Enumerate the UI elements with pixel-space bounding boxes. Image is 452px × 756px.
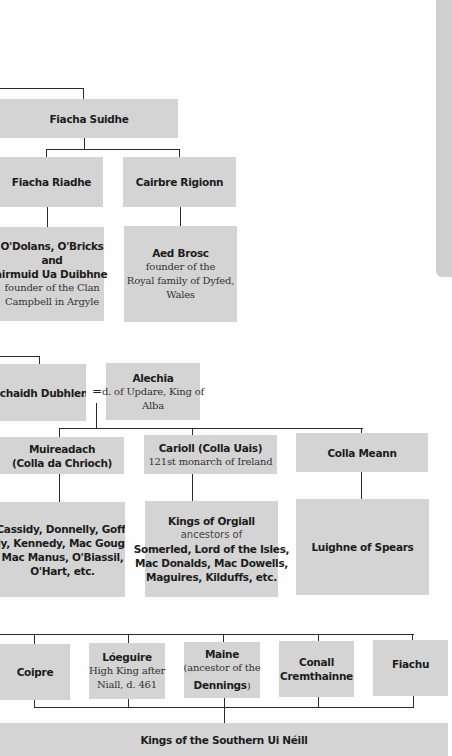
connector xyxy=(179,149,180,157)
node-name: Fiacha Suidhe xyxy=(49,112,128,126)
node-cairbre-rigionn: Cairbre Rigionn xyxy=(123,157,236,207)
node-fiacha-suidhe: Fiacha Suidhe xyxy=(0,99,178,138)
connector xyxy=(224,698,225,723)
node-carioll: Carioll (Colla Uais) 121st monarch of Ir… xyxy=(144,435,277,474)
node-kings-of-orgiall: Kings of Orgiall ancestors of Somerled, … xyxy=(145,501,278,597)
node-eochaidh: Eochaidh Dubhlen xyxy=(0,364,86,421)
node-fiacha-riadhe: Fiacha Riadhe xyxy=(0,157,103,207)
node-name: Maine xyxy=(205,647,239,661)
node-desc: (ancestor of the xyxy=(183,661,260,675)
node-desc-line: Dennings) xyxy=(194,675,251,693)
node-line: O'Hart, etc. xyxy=(30,564,95,578)
node-luighne: Luighne of Spears xyxy=(296,499,429,595)
node-fiachu: Fiachu xyxy=(373,640,448,696)
node-name: Luighne of Spears xyxy=(311,540,413,554)
node-muireadach: Muireadach (Colla da Chrioch) xyxy=(0,437,124,474)
node-colla-meann: Colla Meann xyxy=(296,433,428,472)
connector xyxy=(180,207,181,226)
node-desc: High King after xyxy=(89,664,165,678)
node-name: Alechia xyxy=(132,371,173,385)
node-cassidy: Cassidy, Donnelly, Goff, Kelly, Kennedy,… xyxy=(0,502,125,597)
node-southern-ui-neill: Kings of the Southern Ui Néill xyxy=(0,723,448,756)
node-line: O'Dolans, O'Bricks xyxy=(0,239,103,253)
connector xyxy=(192,428,193,435)
connector xyxy=(361,472,362,499)
connector xyxy=(59,474,60,502)
node-desc: Royal family of Dyfed, xyxy=(127,274,234,288)
node-desc: founder of the Clan xyxy=(5,281,100,295)
node-line: Mac Manus, O'Biassil, xyxy=(1,550,123,564)
marriage-symbol: = xyxy=(92,384,102,398)
connector xyxy=(39,356,40,364)
connector xyxy=(0,356,40,357)
node-name: Dennings xyxy=(194,679,247,691)
node-aed-brosc: Aed Brosc founder of the Royal family of… xyxy=(124,226,237,322)
node-name: Coipre xyxy=(17,665,54,679)
node-line: Kelly, Kennedy, Mac Gough, xyxy=(0,536,125,550)
connector xyxy=(413,696,414,707)
connector xyxy=(128,634,129,643)
node-maine: Maine (ancestor of the Dennings) xyxy=(184,642,260,698)
node-name: Carioll (Colla Uais) xyxy=(159,441,263,455)
node-desc: Alba xyxy=(142,399,164,413)
node-name: Aed Brosc xyxy=(152,246,209,260)
connector xyxy=(46,149,47,157)
connector xyxy=(83,88,84,99)
node-line: Conall xyxy=(299,655,334,669)
node-name: Lóeguire xyxy=(102,650,152,664)
connector xyxy=(34,634,35,644)
connector xyxy=(59,428,60,437)
node-line: and xyxy=(41,253,62,267)
node-line: Mac Donalds, Mac Dowells, xyxy=(135,556,288,570)
connector xyxy=(192,474,193,501)
node-name: Fiachu xyxy=(392,657,429,671)
node-desc: 121st monarch of Ireland xyxy=(148,455,272,469)
connector xyxy=(223,634,224,642)
connector xyxy=(318,697,319,707)
connector xyxy=(318,634,319,641)
node-desc: ) xyxy=(247,680,251,691)
node-conall: Conall Cremthainne xyxy=(279,641,354,697)
side-scroll-strip xyxy=(436,0,452,277)
connector xyxy=(46,149,180,150)
node-name: Eochaidh Dubhlen xyxy=(0,386,86,400)
connector xyxy=(84,138,85,149)
node-name: Cairbre Rigionn xyxy=(136,175,224,189)
node-desc: ancestors of xyxy=(181,528,243,542)
node-name: Fiacha Riadhe xyxy=(12,175,91,189)
connector xyxy=(0,88,84,89)
node-line: Cremthainne xyxy=(280,669,353,683)
node-line: Cassidy, Donnelly, Goff, xyxy=(0,522,125,536)
node-line: Dairmuid Ua Duibhne xyxy=(0,267,107,281)
node-odolans: O'Dolans, O'Bricks and Dairmuid Ua Duibh… xyxy=(0,227,104,321)
connector xyxy=(59,428,363,429)
node-coipre: Coipre xyxy=(0,644,70,700)
connector xyxy=(96,403,97,428)
node-desc: Niall, d. 461 xyxy=(97,678,157,692)
node-line: Somerled, Lord of the Isles, xyxy=(134,542,290,556)
node-line: Muireadach xyxy=(29,442,95,456)
connector xyxy=(0,634,414,635)
node-line: Maguires, Kilduffs, etc. xyxy=(146,570,277,584)
node-name: Kings of Orgiall xyxy=(168,514,255,528)
node-name: Colla Meann xyxy=(327,446,396,460)
node-name: Kings of the Southern Ui Néill xyxy=(140,733,307,747)
connector xyxy=(47,207,48,227)
node-desc: d. of Updare, King of xyxy=(102,385,204,399)
node-desc: founder of the xyxy=(146,260,215,274)
node-line: (Colla da Chrioch) xyxy=(12,456,112,470)
node-desc: Wales xyxy=(166,288,195,302)
node-alechia: Alechia d. of Updare, King of Alba xyxy=(106,363,200,420)
node-desc: Campbell in Argyle xyxy=(5,295,99,309)
node-loeguire: Lóeguire High King after Niall, d. 461 xyxy=(89,643,165,699)
